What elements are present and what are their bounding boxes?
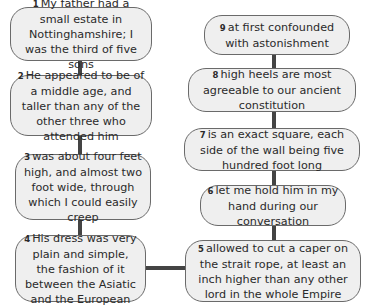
node-7: 7is an exact square, each side of the wa… bbox=[184, 128, 360, 171]
node-number: 5 bbox=[198, 244, 204, 254]
node-5: 5allowed to cut a caper on the strait ro… bbox=[185, 240, 361, 302]
node-3: 3was about four feet high, and almost tw… bbox=[15, 154, 151, 220]
node-6: 6let me hold him in my hand during our c… bbox=[200, 185, 346, 226]
node-number: 9 bbox=[220, 23, 226, 33]
node-2: 2He appeared to be of a middle age, and … bbox=[10, 75, 152, 136]
node-number: 4 bbox=[24, 234, 30, 244]
node-8: 8high heels are most agreeable to our an… bbox=[188, 68, 356, 112]
node-number: 1 bbox=[33, 0, 39, 9]
node-text: at first confounded with astonishment bbox=[225, 21, 334, 50]
node-text: was about four feet high, and almost two… bbox=[24, 150, 142, 224]
node-number: 7 bbox=[200, 130, 206, 140]
node-1: 1My father had a small estate in Notting… bbox=[10, 7, 152, 61]
node-4: 4His dress was very plain and simple, th… bbox=[15, 235, 146, 302]
node-number: 2 bbox=[18, 71, 24, 81]
node-number: 3 bbox=[24, 152, 30, 162]
connector-4-5 bbox=[145, 266, 187, 270]
node-text: allowed to cut a caper on the strait rop… bbox=[198, 242, 348, 301]
node-number: 6 bbox=[208, 186, 214, 196]
node-9: 9at first confounded with astonishment bbox=[204, 15, 350, 55]
node-number: 8 bbox=[213, 70, 219, 80]
node-text: high heels are most agreeable to our anc… bbox=[203, 68, 341, 112]
node-text: My father had a small estate in Nottingh… bbox=[25, 0, 137, 71]
node-text: let me hold him in my hand during our co… bbox=[216, 184, 339, 228]
node-text: is an exact square, each side of the wal… bbox=[200, 128, 344, 172]
node-text: His dress was very plain and simple, the… bbox=[25, 232, 137, 306]
node-text: He appeared to be of a middle age, and t… bbox=[22, 69, 144, 143]
